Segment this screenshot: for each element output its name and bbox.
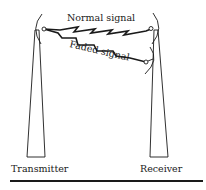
transmitter-label: Transmitter [11,163,69,174]
transmitter-antenna-arc [36,14,42,44]
normal-signal-path [44,27,151,35]
faded-signal-label: Faded signal [69,38,131,62]
receiver-label: Receiver [140,163,183,174]
fading-diagram: Normal signal Faded signal Transmitter R… [0,0,206,190]
normal-signal-label: Normal signal [67,12,135,23]
transmitter-node [42,27,46,31]
receiver-tower [145,13,168,157]
receiver-node-upper [149,27,153,31]
receiver-node-lower [144,60,148,64]
transmitter-tower [27,14,45,157]
